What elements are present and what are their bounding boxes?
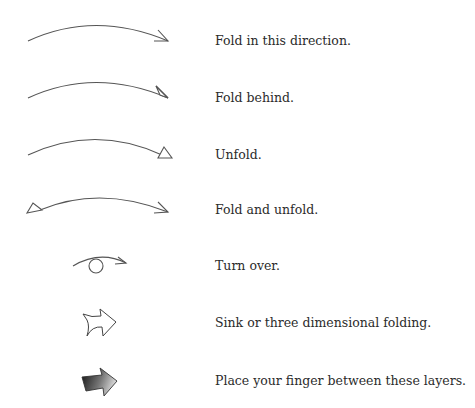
place-finger-arrow-icon [0, 360, 200, 400]
legend-label: Fold and unfold. [215, 203, 318, 217]
legend-label: Unfold. [215, 148, 262, 162]
fold-and-unfold-arrow-icon [0, 190, 200, 230]
mountain-fold-arrow-icon [0, 77, 200, 117]
valley-fold-arrow-icon [0, 20, 200, 60]
unfold-arrow-icon [0, 134, 200, 174]
legend-label: Turn over. [215, 259, 280, 273]
legend-label: Fold behind. [215, 91, 294, 105]
legend-row-sink: Sink or three dimensional folding. [0, 303, 475, 343]
legend-label: Fold in this direction. [215, 34, 351, 48]
legend-label: Place your finger between these layers. [215, 374, 466, 388]
legend-row-fold-behind: Fold behind. [0, 77, 475, 117]
origami-symbol-legend: { "legend": { "items": [ {"symbol": "val… [0, 0, 475, 408]
legend-label: Sink or three dimensional folding. [215, 316, 431, 330]
legend-row-place-finger: Place your finger between these layers. [0, 360, 475, 400]
legend-row-fold-in-direction: Fold in this direction. [0, 20, 475, 60]
sink-arrow-icon [0, 303, 200, 343]
legend-row-fold-and-unfold: Fold and unfold. [0, 190, 475, 230]
turn-over-arrow-icon [0, 246, 200, 286]
legend-row-unfold: Unfold. [0, 134, 475, 174]
legend-row-turn-over: Turn over. [0, 246, 475, 286]
